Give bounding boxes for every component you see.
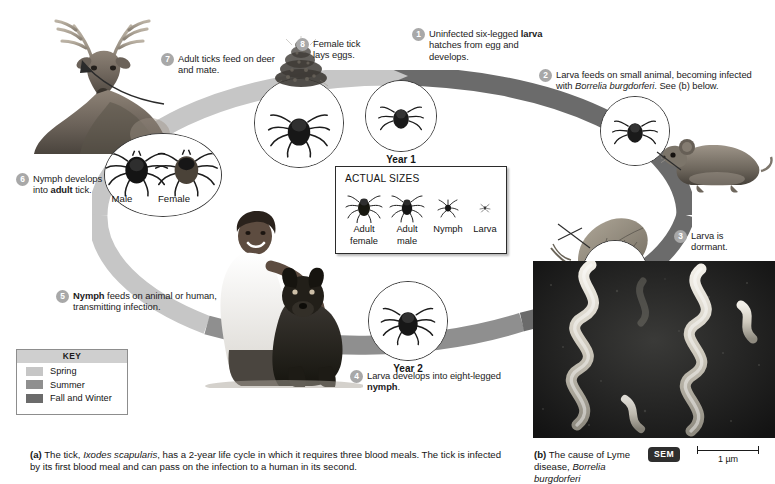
- actual-size-label-line1: Nymph: [428, 224, 468, 235]
- tick-adult-male-icon: [386, 191, 428, 223]
- step-6-note: 6 Nymph develops into adult tick.: [16, 173, 120, 196]
- scale-bar-line: [697, 446, 759, 454]
- step-3-number: 3: [674, 230, 687, 243]
- actual-sizes-title: ACTUAL SIZES: [345, 173, 419, 184]
- scale-bar: 1 µm: [697, 446, 759, 464]
- step-5-text-bold: Nymph: [73, 290, 105, 301]
- step-4-text-bold: nymph: [367, 381, 397, 392]
- tick-larva-icon: [466, 191, 504, 223]
- egg-laying-tick-circle: [254, 78, 344, 168]
- step-1-text-b: hatches from egg and develops.: [429, 39, 519, 61]
- step-2-text-b: . See (b) below.: [654, 80, 718, 91]
- step-2-species-name: Borrelia burgdorferi: [575, 80, 654, 91]
- step-4-note: 4 Larva develops into eight-legged nymph…: [350, 370, 518, 393]
- caption-b: (b) The cause of Lyme disease, Borrelia …: [534, 449, 646, 484]
- actual-sizes-box: ACTUAL SIZES: [335, 166, 507, 254]
- caption-a-species: Ixodes scapularis: [83, 449, 157, 460]
- actual-size-item-adult-male: Adult male: [386, 191, 428, 246]
- step-1-text-a: Uninfected six-legged: [429, 28, 521, 39]
- key-item-fall-winter: Fall and Winter: [26, 393, 127, 403]
- step-6-text-b: tick.: [73, 184, 92, 195]
- step-2-note: 2 Larva feeds on small animal, becoming …: [539, 69, 764, 92]
- key-swatch-fall-winter: [26, 394, 43, 403]
- key-label-summer: Summer: [50, 380, 85, 390]
- tick-life-cycle-figure: Male Female: [0, 0, 775, 484]
- female-tick-label: Female: [144, 193, 204, 204]
- caption-a: (a) The tick, Ixodes scapularis, has a 2…: [30, 449, 510, 473]
- key-legend: KEY Spring Summer Fall and Winter: [16, 349, 128, 415]
- step-8-text: Female tick lays eggs.: [313, 38, 360, 60]
- caption-a-label: (a): [30, 449, 42, 460]
- actual-size-label-line2: female: [342, 236, 386, 247]
- actual-size-label-line1: Larva: [466, 224, 504, 235]
- step-4-text-a: Larva develops into eight-legged: [367, 370, 501, 381]
- key-title: KEY: [17, 350, 127, 363]
- step-7-text: Adult ticks feed on deer and mate.: [178, 53, 275, 75]
- year-1-label: Year 1: [361, 154, 441, 165]
- step-2-number: 2: [539, 69, 552, 82]
- caption-b-label: (b): [534, 449, 546, 460]
- step-8-note: 8 Female tick lays eggs.: [296, 38, 384, 61]
- year1-larva-circle: [365, 80, 437, 152]
- step-1-number: 1: [412, 28, 425, 41]
- step-5-note: 5 Nymph feeds on animal or human, transm…: [56, 290, 228, 313]
- actual-size-label-line2: male: [386, 236, 428, 247]
- step-3-pointer-line: [556, 222, 596, 256]
- actual-size-label-line1: Adult: [386, 224, 428, 235]
- key-item-summer: Summer: [26, 380, 127, 390]
- key-swatch-summer: [26, 380, 43, 389]
- actual-size-label-line1: Adult: [342, 224, 386, 235]
- actual-size-item-nymph: Nymph: [428, 191, 468, 235]
- sem-badge: SEM: [648, 447, 680, 462]
- caption-a-part-0: The tick,: [42, 449, 83, 460]
- step-6-text-bold: adult: [50, 184, 72, 195]
- key-swatch-spring: [26, 367, 43, 376]
- step-2-pointer-line: [655, 150, 685, 178]
- key-item-spring: Spring: [26, 366, 127, 376]
- tick-nymph-icon: [428, 191, 468, 223]
- actual-size-item-larva: Larva: [466, 191, 504, 235]
- step-3-note: 3 Larva is dormant.: [674, 230, 766, 253]
- step-4-text-b: .: [397, 381, 400, 392]
- step-1-note: 1 Uninfected six-legged larva hatches fr…: [412, 28, 552, 62]
- step-7-note: 7 Adult ticks feed on deer and mate.: [161, 53, 291, 76]
- key-label-spring: Spring: [50, 366, 77, 376]
- step-1-text-bold: larva: [521, 28, 543, 39]
- adult-ticks-circle: [104, 133, 222, 217]
- step-4-number: 4: [350, 370, 363, 383]
- tick-adult-female-icon: [342, 191, 386, 223]
- scale-bar-label: 1 µm: [697, 454, 759, 464]
- sem-micrograph: [533, 261, 775, 438]
- step-8-number: 8: [296, 38, 309, 51]
- actual-size-item-adult-female: Adult female: [342, 191, 386, 246]
- step-6-number: 6: [16, 173, 29, 186]
- step-5-number: 5: [56, 290, 69, 303]
- year2-nymph-circle: [368, 281, 448, 361]
- step-7-pointer-arrow: [58, 54, 170, 120]
- key-label-fall-winter: Fall and Winter: [50, 393, 112, 403]
- step-3-text: Larva is dormant.: [691, 230, 728, 252]
